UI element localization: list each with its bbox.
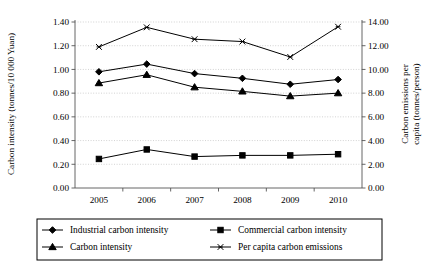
legend-label: Commercial carbon intensity (238, 225, 347, 235)
left-tick-label: 0.60 (53, 112, 69, 122)
data-point-square (288, 153, 293, 158)
x-tick-label: 2006 (138, 195, 157, 205)
right-tick-label: 2.00 (368, 160, 384, 170)
legend-label: Carbon intensity (70, 242, 133, 252)
right-tick-label: 6.00 (368, 112, 384, 122)
right-tick-label: 4.00 (368, 136, 384, 146)
right-tick-label: 8.00 (368, 88, 384, 98)
right-tick-label: 14.00 (368, 17, 389, 27)
left-tick-label: 0.40 (53, 136, 69, 146)
line-chart: 0.000.200.400.600.801.001.201.40 0.002.0… (0, 0, 428, 267)
chart-figure: 0.000.200.400.600.801.001.201.40 0.002.0… (0, 0, 428, 267)
legend-marker-square (218, 227, 223, 232)
left-tick-label: 0.20 (53, 160, 69, 170)
data-point-square (96, 156, 101, 161)
left-tick-label: 1.40 (53, 17, 69, 27)
legend-label: Industrial carbon intensity (70, 225, 169, 235)
left-tick-label: 0.00 (53, 183, 69, 193)
right-tick-label: 12.00 (368, 41, 389, 51)
x-tick-label: 2009 (281, 195, 300, 205)
left-axis-title: Carbon intensity (tonnes/10 000 Yuan) (6, 33, 16, 175)
x-tick-label: 2008 (233, 195, 252, 205)
x-tick-label: 2007 (185, 195, 204, 205)
right-axis-title-line2: capita (tonnes/person) (411, 63, 421, 144)
right-tick-label: 0.00 (368, 183, 384, 193)
legend-label: Per capita carbon emissions (238, 242, 343, 252)
x-tick-label: 2010 (329, 195, 348, 205)
right-tick-label: 10.00 (368, 65, 389, 75)
data-point-square (240, 153, 245, 158)
data-point-square (144, 147, 149, 152)
right-axis-title-line1: Carbon emissions per (400, 64, 410, 144)
left-tick-label: 1.00 (53, 65, 69, 75)
left-tick-label: 0.80 (53, 88, 69, 98)
data-point-square (335, 152, 340, 157)
data-point-square (192, 154, 197, 159)
x-tick-label: 2005 (90, 195, 109, 205)
left-tick-label: 1.20 (53, 41, 69, 51)
